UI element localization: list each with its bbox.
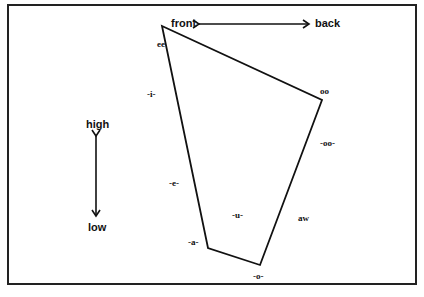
- front-label: front: [171, 18, 196, 29]
- vowel-a-label: -a-: [188, 238, 199, 247]
- high-label: high: [86, 119, 109, 130]
- low-label: low: [88, 222, 106, 233]
- back-label: back: [315, 18, 340, 29]
- vowel-chart: [0, 0, 424, 297]
- vowel-e-label: -e-: [169, 179, 179, 188]
- vowel-aw-label: aw: [298, 214, 309, 223]
- vowel-oo-label: oo: [320, 87, 329, 96]
- vowel-o-label: -o-: [253, 272, 264, 281]
- vowel-oo-short-label: -oo-: [320, 139, 335, 148]
- vowel-i-label: -i-: [147, 90, 156, 99]
- vowel-u-label: -u-: [232, 211, 243, 220]
- vowel-quadrilateral: [162, 26, 322, 265]
- vowel-ee-label: ee: [157, 40, 165, 49]
